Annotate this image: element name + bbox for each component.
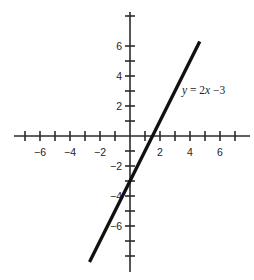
y-tick-label-neg6: −6 bbox=[110, 220, 122, 232]
x-tick-label-6: 6 bbox=[217, 146, 223, 158]
x-tick-label-neg2: −2 bbox=[94, 146, 106, 158]
y-tick-label-2: 2 bbox=[116, 100, 122, 112]
y-tick-label-neg2: −2 bbox=[110, 160, 122, 172]
x-tick-label-4: 4 bbox=[187, 146, 193, 158]
x-tick-label-neg4: −4 bbox=[64, 146, 76, 158]
x-tick-label-2: 2 bbox=[157, 146, 163, 158]
equation-annotation: y = 2x −3 bbox=[181, 84, 226, 97]
line-y-equals-2x-minus-3 bbox=[90, 42, 200, 263]
graph-canvas: −6 −4 −2 2 4 6 6 4 2 −2 −4 −6 y = 2x −3 bbox=[0, 0, 254, 280]
y-tick-label-4: 4 bbox=[116, 70, 122, 82]
y-tick-label-6: 6 bbox=[116, 40, 122, 52]
x-tick-label-neg6: −6 bbox=[34, 146, 46, 158]
coordinate-plane-figure: −6 −4 −2 2 4 6 6 4 2 −2 −4 −6 y = 2x −3 bbox=[0, 0, 254, 280]
